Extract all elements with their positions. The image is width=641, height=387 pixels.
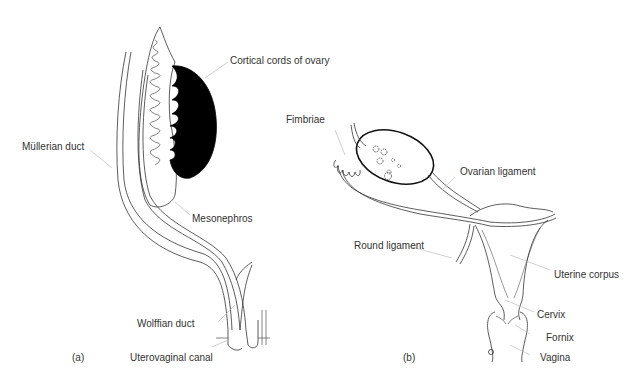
label-cortical-cords: Cortical cords of ovary [230, 55, 329, 67]
label-uterine-corpus: Uterine corpus [554, 269, 619, 281]
label-ovarian-ligament: Ovarian ligament [460, 166, 536, 178]
label-fornix: Fornix [546, 332, 574, 344]
label-cervix: Cervix [537, 309, 565, 321]
label-mesonephros: Mesonephros [192, 213, 253, 225]
panel-a-tag: (a) [72, 352, 84, 364]
label-wolffian-duct: Wolffian duct [137, 318, 194, 330]
panel-a-drawing [117, 27, 270, 350]
panel-b-tag: (b) [403, 352, 415, 364]
label-vagina: Vagina [540, 352, 570, 364]
label-round-ligament: Round ligament [354, 240, 424, 252]
label-uterovaginal-canal: Uterovaginal canal [130, 352, 213, 364]
label-mullerian-duct: Müllerian duct [22, 141, 84, 153]
label-fimbriae: Fimbriae [286, 114, 325, 126]
